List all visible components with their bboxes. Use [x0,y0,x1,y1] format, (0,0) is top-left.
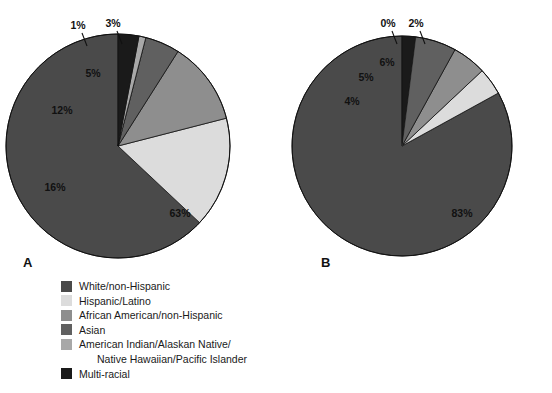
pie-value-label: 16% [44,181,66,193]
legend-swatch [61,281,72,292]
legend-a: White/non-HispanicHispanic/LatinoAfrican… [61,279,247,381]
pie-value-label: 3% [105,17,121,29]
legend-swatch [61,339,72,350]
panel-a-letter: A [23,256,33,269]
pie-value-label: 0% [380,17,396,29]
pie-value-label: 63% [169,207,191,219]
pie-b-slices [292,36,512,256]
pie-value-label: 5% [85,67,101,79]
legend-label: Multi-racial [79,367,130,382]
legend-item[interactable]: White/non-Hispanic [61,279,247,294]
legend-item[interactable]: Asian [61,323,247,338]
legend-item[interactable]: Multi-racial [61,367,247,382]
legend-item[interactable]: Hispanic/Latino [61,294,247,309]
legend-swatch [61,310,72,321]
legend-label: American Indian/Alaskan Native/Native Ha… [79,337,247,366]
legend-label: Asian [79,323,105,338]
pie-a-slices [6,34,230,258]
pie-chart-a: 63%16%12%5%1%3% [0,0,276,280]
legend-label: White/non-Hispanic [79,279,170,294]
pie-value-label: 5% [358,71,374,83]
pie-b-svg: 83%4%5%6%0%2% [276,0,552,280]
legend-swatch [61,295,72,306]
pie-chart-b: 83%4%5%6%0%2% [276,0,552,280]
pie-value-label: 12% [51,104,73,116]
legend-item[interactable]: American Indian/Alaskan Native/Native Ha… [61,337,247,366]
pie-a-svg: 63%16%12%5%1%3% [0,0,276,280]
figure-container: 63%16%12%5%1%3% A White/non-HispanicHisp… [0,0,552,393]
pie-value-label: 83% [451,207,473,219]
pie-value-label: 4% [344,95,360,107]
pie-value-label: 1% [70,19,86,31]
panel-a: 63%16%12%5%1%3% A White/non-HispanicHisp… [0,0,276,393]
legend-label-continued: Native Hawaiian/Pacific Islander [79,352,247,367]
pie-value-label: 6% [379,56,395,68]
legend-label: African American/non-Hispanic [79,308,223,323]
legend-label: Hispanic/Latino [79,294,151,309]
legend-item[interactable]: African American/non-Hispanic [61,308,247,323]
legend-swatch [61,368,72,379]
panel-b: 83%4%5%6%0%2% B White/non-HispanicHispan… [276,0,552,393]
legend-swatch [61,324,72,335]
panel-b-letter: B [321,256,331,269]
pie-value-label: 2% [408,17,424,29]
